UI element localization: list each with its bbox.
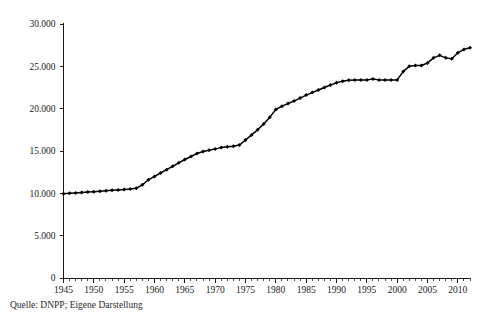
data-point-marker — [468, 46, 472, 50]
data-point-marker — [104, 189, 108, 193]
data-point-marker — [365, 78, 369, 82]
x-tick-label: 2000 — [388, 285, 407, 295]
series-line-bestand — [64, 48, 471, 194]
data-point-marker — [359, 78, 363, 82]
data-point-marker — [207, 148, 211, 152]
data-point-marker — [219, 146, 223, 150]
y-tick-label: 10.000 — [29, 189, 55, 199]
data-point-marker — [86, 190, 90, 194]
data-point-marker — [110, 188, 114, 192]
x-tick-label: 2005 — [418, 285, 437, 295]
x-tick-label: 1970 — [206, 285, 225, 295]
data-point-marker — [116, 188, 120, 192]
data-point-marker — [225, 145, 229, 149]
y-tick-label: 25.000 — [29, 62, 55, 72]
data-point-marker — [122, 188, 126, 192]
data-point-marker — [353, 78, 357, 82]
x-tick-label: 1960 — [145, 285, 164, 295]
data-point-marker — [383, 78, 387, 82]
data-point-marker — [341, 79, 345, 83]
data-point-marker — [231, 144, 235, 148]
y-tick-label: 0 — [51, 273, 56, 283]
data-point-marker — [92, 190, 96, 194]
chart-figure: 05.00010.00015.00020.00025.00030.0001945… — [0, 0, 485, 322]
y-tick-label: 20.000 — [29, 104, 55, 114]
data-point-marker — [413, 63, 417, 67]
y-tick-label: 5.000 — [34, 231, 56, 241]
data-point-marker — [80, 190, 84, 194]
data-point-marker — [74, 191, 78, 195]
x-tick-label: 1945 — [54, 285, 73, 295]
x-tick-label: 1955 — [115, 285, 134, 295]
x-tick-label: 1950 — [84, 285, 103, 295]
y-tick-label: 15.000 — [29, 146, 55, 156]
data-point-marker — [377, 78, 381, 82]
data-point-marker — [371, 77, 375, 81]
x-tick-label: 2010 — [448, 285, 467, 295]
x-tick-label: 1995 — [357, 285, 376, 295]
data-point-marker — [62, 192, 66, 196]
x-tick-label: 1990 — [327, 285, 346, 295]
data-point-marker — [347, 78, 351, 82]
data-point-marker — [68, 191, 72, 195]
y-tick-label: 30.000 — [29, 19, 55, 29]
x-tick-label: 1965 — [175, 285, 194, 295]
data-point-marker — [316, 88, 320, 92]
data-point-marker — [335, 81, 339, 85]
x-tick-label: 1980 — [266, 285, 285, 295]
source-note: Quelle: DNPP; Eigene Darstellung — [10, 300, 143, 310]
line-chart: 05.00010.00015.00020.00025.00030.0001945… — [0, 0, 485, 322]
data-point-marker — [213, 147, 217, 151]
data-point-marker — [389, 78, 393, 82]
data-point-marker — [98, 189, 102, 193]
data-point-marker — [201, 149, 205, 153]
x-tick-label: 1985 — [297, 285, 316, 295]
x-tick-label: 1975 — [236, 285, 255, 295]
data-point-marker — [444, 56, 448, 60]
data-point-marker — [128, 187, 132, 191]
data-point-marker — [322, 86, 326, 90]
data-point-marker — [419, 63, 423, 67]
